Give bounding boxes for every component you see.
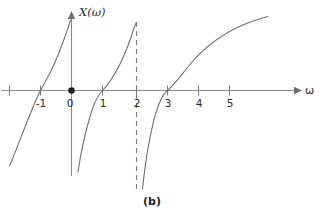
tick-label-0: 0 (67, 97, 74, 109)
figure-caption: (b) (143, 195, 161, 208)
graph-svg: -1 0 1 2 3 4 5 X(ω) ω (b) (0, 0, 320, 213)
figure-container: -1 0 1 2 3 4 5 X(ω) ω (b) (0, 0, 320, 213)
curve-branch-2 (78, 23, 136, 173)
tick-label-4: 4 (196, 97, 203, 109)
tick-label-2: 2 (134, 97, 141, 109)
y-axis-arrowhead (68, 11, 75, 19)
origin-dot (68, 87, 74, 93)
tick-label-3: 3 (165, 97, 172, 109)
tick-label-minus-1: -1 (36, 97, 46, 109)
x-axis-label: ω (305, 84, 314, 97)
curve-branch-3 (143, 17, 269, 190)
x-axis-arrowhead (294, 87, 302, 94)
tick-label-1: 1 (100, 97, 107, 109)
y-axis-label: X(ω) (78, 5, 106, 19)
tick-label-5: 5 (227, 97, 234, 109)
